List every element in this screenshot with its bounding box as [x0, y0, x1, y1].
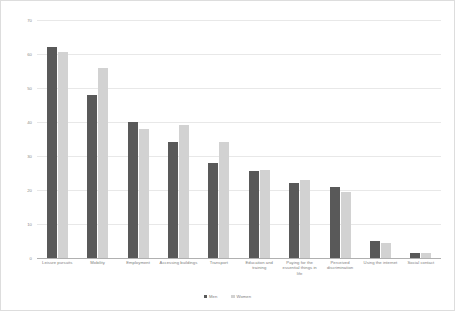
bar-women[interactable]: [421, 253, 431, 258]
bar-group: [118, 20, 158, 258]
bar-men[interactable]: [289, 183, 299, 258]
bar-women[interactable]: [139, 129, 149, 258]
bar-men[interactable]: [370, 241, 380, 258]
bar-group: [320, 20, 360, 258]
category-label: Transport: [199, 260, 239, 276]
bar-men[interactable]: [330, 187, 340, 258]
plot-area: 010203040506070: [37, 20, 441, 258]
bar-women[interactable]: [58, 52, 68, 258]
bar-group: [279, 20, 319, 258]
bar-men[interactable]: [410, 253, 420, 258]
category-label: Accessing buildings: [158, 260, 198, 276]
bar-group: [401, 20, 441, 258]
bar-women[interactable]: [341, 192, 351, 258]
bar-chart: 010203040506070 Leisure pursuitsMobility…: [0, 0, 455, 311]
y-axis-tick-label: 50: [27, 86, 32, 91]
bar-men[interactable]: [208, 163, 218, 258]
bar-group: [158, 20, 198, 258]
bar-men[interactable]: [47, 47, 57, 258]
bar-women[interactable]: [300, 180, 310, 258]
bar-group: [360, 20, 400, 258]
bar-men[interactable]: [87, 95, 97, 258]
chart-legend: MenWomen: [1, 294, 454, 299]
square-swatch-light-icon: [231, 295, 234, 298]
bar-group: [77, 20, 117, 258]
bar-women[interactable]: [179, 125, 189, 258]
legend-item-women[interactable]: Women: [231, 294, 251, 299]
bar-group: [239, 20, 279, 258]
y-axis-tick-label: 60: [27, 52, 32, 57]
y-axis-tick-label: 40: [27, 120, 32, 125]
bars-group: [37, 20, 441, 258]
category-axis: Leisure pursuitsMobilityEmploymentAccess…: [37, 260, 441, 276]
category-label: Employment: [118, 260, 158, 276]
bar-women[interactable]: [260, 170, 270, 258]
category-label: Mobility: [77, 260, 117, 276]
category-label: Paying for the essential things in life: [279, 260, 319, 276]
bar-women[interactable]: [381, 243, 391, 258]
gridline-0: 0: [37, 258, 441, 259]
category-label: Education and training: [239, 260, 279, 276]
y-axis-tick-label: 70: [27, 18, 32, 23]
bar-men[interactable]: [249, 171, 259, 258]
category-label: Social contact: [401, 260, 441, 276]
y-axis-tick-label: 10: [27, 222, 32, 227]
bar-women[interactable]: [219, 142, 229, 258]
bar-group: [199, 20, 239, 258]
y-axis-tick-label: 0: [30, 256, 32, 261]
legend-label: Women: [237, 294, 252, 299]
category-label: Leisure pursuits: [37, 260, 77, 276]
legend-item-men[interactable]: Men: [204, 294, 217, 299]
bar-women[interactable]: [98, 68, 108, 258]
category-label: Perceived discrimination: [320, 260, 360, 276]
legend-label: Men: [209, 294, 217, 299]
square-swatch-dark-icon: [204, 295, 207, 298]
y-axis-tick-label: 30: [27, 154, 32, 159]
bar-men[interactable]: [128, 122, 138, 258]
bar-men[interactable]: [168, 142, 178, 258]
bar-group: [37, 20, 77, 258]
y-axis-tick-label: 20: [27, 188, 32, 193]
category-label: Using the internet: [360, 260, 400, 276]
